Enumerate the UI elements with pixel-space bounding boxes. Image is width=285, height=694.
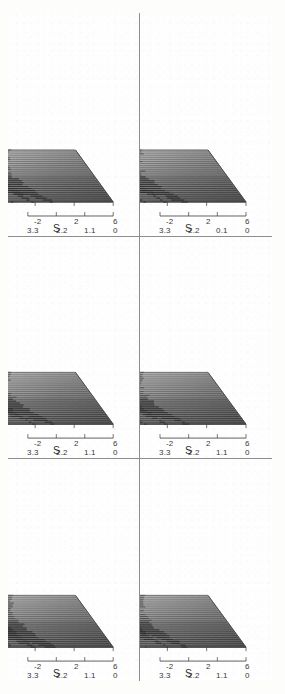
waterfall-surface-plot [8, 13, 139, 236]
panel-f: (f)P3.32.20.1062-2-6S0.90.3-0.3-0.9X [140, 13, 272, 236]
rotated-figure-content: (a)P3.32.21.1062-2-6S0.90.3-0.3-0.9X(b)P… [8, 13, 272, 681]
panel-d: (d)P3.32.21.1062-2-6S0.90.3-0.3-0.9X [140, 458, 272, 681]
s-tick-2: -2 [166, 439, 174, 448]
s-tick-0: 6 [245, 217, 250, 226]
p-axis-name: P [120, 456, 127, 458]
s-axis-name: S [185, 222, 192, 234]
p-tick-2: 1.1 [84, 671, 96, 680]
p-tick-3: 0 [113, 448, 118, 457]
s-axis-name: S [53, 444, 60, 456]
p-tick-0: 3.3 [159, 671, 171, 680]
waterfall-surface-plot [8, 459, 139, 681]
panel-b: (b)P3.32.21.1062-2-6S0.90.3-0.3-0.9X [8, 236, 140, 459]
s-tick-1: 2 [206, 662, 211, 671]
p-axis-name: P [252, 456, 259, 458]
s-tick-0: 6 [245, 662, 250, 671]
panel-c: (c)P3.32.21.1062-2-6S0.90.3-0.3-0.9X [8, 13, 140, 236]
s-tick-2: -2 [34, 439, 42, 448]
p-tick-0: 3.3 [27, 671, 39, 680]
waterfall-surface-plot [140, 237, 272, 459]
p-tick-0: 3.3 [27, 226, 39, 235]
p-tick-0: 3.3 [159, 448, 171, 457]
waterfall-surface-plot [140, 13, 272, 236]
s-axis-name: S [53, 667, 60, 679]
waterfall-surface-plot [140, 459, 272, 681]
s-tick-1: 2 [206, 217, 211, 226]
p-axis-name: P [120, 234, 127, 236]
p-tick-3: 0 [113, 226, 118, 235]
p-tick-2: 0.1 [216, 226, 228, 235]
p-tick-3: 0 [245, 448, 250, 457]
p-tick-3: 0 [245, 226, 250, 235]
p-tick-2: 1.1 [216, 448, 228, 457]
p-tick-0: 3.3 [159, 226, 171, 235]
figure-frame: (a)P3.32.21.1062-2-6S0.90.3-0.3-0.9X(b)P… [8, 13, 272, 681]
s-tick-0: 6 [113, 439, 118, 448]
s-tick-1: 2 [206, 439, 211, 448]
s-axis-name: S [53, 222, 60, 234]
p-axis-name: P [252, 679, 259, 681]
panel-e: (e)P3.32.21.1062-2-6S0.90.3-0.3-0.9X [140, 236, 272, 459]
s-tick-2: -2 [34, 662, 42, 671]
s-tick-2: -2 [166, 217, 174, 226]
s-tick-0: 6 [113, 217, 118, 226]
s-tick-1: 2 [74, 439, 79, 448]
figure-page: (a)P3.32.21.1062-2-6S0.90.3-0.3-0.9X(b)P… [0, 0, 285, 694]
p-tick-2: 1.1 [216, 671, 228, 680]
p-tick-2: 1.1 [84, 448, 96, 457]
p-tick-2: 1.1 [84, 226, 96, 235]
s-tick-0: 6 [113, 662, 118, 671]
p-tick-3: 0 [245, 671, 250, 680]
s-tick-2: -2 [166, 662, 174, 671]
s-tick-0: 6 [245, 439, 250, 448]
s-axis-name: S [185, 444, 192, 456]
p-axis-name: P [120, 679, 127, 681]
s-tick-1: 2 [74, 662, 79, 671]
p-axis-name: P [252, 234, 259, 236]
s-tick-2: -2 [34, 217, 42, 226]
s-axis-name: S [185, 667, 192, 679]
waterfall-surface-plot [8, 237, 139, 459]
panel-grid: (a)P3.32.21.1062-2-6S0.90.3-0.3-0.9X(b)P… [8, 13, 272, 681]
s-tick-1: 2 [74, 217, 79, 226]
p-tick-0: 3.3 [27, 448, 39, 457]
p-tick-3: 0 [113, 671, 118, 680]
panel-a: (a)P3.32.21.1062-2-6S0.90.3-0.3-0.9X [8, 458, 140, 681]
